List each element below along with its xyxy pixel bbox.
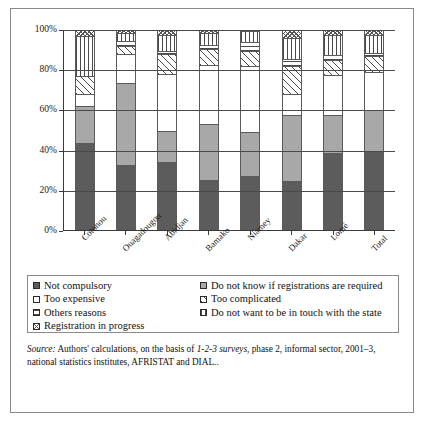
y-axis-tick bbox=[59, 110, 63, 111]
legend-swatch-white-icon bbox=[33, 296, 40, 303]
bar-segment bbox=[282, 38, 302, 59]
source-text-before: Authors' calculations, on the basis of bbox=[56, 344, 197, 354]
bar-segment bbox=[75, 76, 95, 94]
grid-line bbox=[64, 70, 395, 71]
x-axis-tick bbox=[374, 231, 375, 235]
stacked-bar bbox=[282, 30, 302, 230]
y-axis-tick-label: 0% bbox=[25, 226, 57, 236]
bar-column bbox=[323, 30, 343, 230]
legend-label: Do not know if registrations are require… bbox=[211, 281, 382, 292]
y-axis-tick bbox=[59, 151, 63, 152]
bar-column bbox=[116, 30, 136, 230]
legend-item: Others reasons bbox=[33, 306, 201, 320]
bar-segment bbox=[364, 53, 384, 56]
legend-label: Not compulsory bbox=[44, 281, 112, 292]
bar-segment bbox=[240, 51, 260, 66]
bar-segment bbox=[364, 110, 384, 152]
bar-column bbox=[282, 30, 302, 230]
bar-segment bbox=[282, 59, 302, 66]
legend-item: Registration in progress bbox=[33, 320, 201, 334]
bar-segment bbox=[282, 115, 302, 181]
stacked-bar bbox=[157, 30, 177, 230]
legend-label: Others reasons bbox=[44, 308, 106, 319]
source-italic-phrase: 1-2-3 surveys bbox=[197, 344, 247, 354]
bar-segment bbox=[323, 55, 343, 60]
bar-segment bbox=[199, 180, 219, 230]
stacked-bar bbox=[116, 30, 136, 230]
legend-column-left: Not compulsoryToo expensiveOthers reason… bbox=[33, 279, 201, 333]
plot-canvas bbox=[63, 30, 395, 231]
legend-label: Too complicated bbox=[211, 294, 281, 305]
y-axis-tick bbox=[59, 191, 63, 192]
x-axis-labels: CotonouOuagadougouAbidjanBamakoNiameyDak… bbox=[63, 231, 395, 275]
legend-label: Registration in progress bbox=[44, 321, 144, 332]
legend-swatch-solid-dark-gray-icon bbox=[33, 282, 40, 289]
y-axis-tick-label: 100% bbox=[25, 25, 57, 35]
legend-swatch-vertical-lines-icon bbox=[200, 309, 207, 316]
y-axis-tick-label: 40% bbox=[25, 146, 57, 156]
bar-segment bbox=[199, 124, 219, 180]
bar-column bbox=[240, 30, 260, 230]
bar-segment bbox=[323, 35, 343, 55]
bar-segment bbox=[157, 35, 177, 51]
bar-segment bbox=[199, 65, 219, 124]
bar-segment bbox=[364, 72, 384, 110]
stacked-bar bbox=[364, 30, 384, 230]
bar-segment bbox=[282, 94, 302, 115]
bar-segment bbox=[240, 132, 260, 176]
legend-swatch-diagonal-hatch-icon bbox=[200, 296, 207, 303]
legend-item: Do not know if registrations are require… bbox=[200, 279, 398, 293]
legend-swatch-checkerboard-icon bbox=[33, 323, 40, 330]
grid-line bbox=[64, 110, 395, 111]
bar-segment bbox=[199, 33, 219, 45]
bar-column bbox=[157, 30, 177, 230]
bar-segment bbox=[240, 66, 260, 132]
stacked-bar bbox=[323, 30, 343, 230]
bar-segment bbox=[116, 165, 136, 230]
legend-item: Do not want to be in touch with the stat… bbox=[200, 306, 398, 320]
y-axis-tick-label: 20% bbox=[25, 186, 57, 196]
source-label: Source: bbox=[27, 344, 56, 354]
y-axis-tick-label: 80% bbox=[25, 65, 57, 75]
legend-item: Too expensive bbox=[33, 293, 201, 307]
bar-segment bbox=[240, 31, 260, 42]
bar-segment bbox=[116, 33, 136, 41]
stacked-bar bbox=[240, 30, 260, 230]
bar-segment bbox=[199, 49, 219, 65]
x-axis-label: Total bbox=[370, 234, 389, 253]
bar-segment bbox=[364, 35, 384, 53]
bar-segment bbox=[157, 51, 177, 54]
legend-swatch-horizontal-lines-icon bbox=[33, 309, 40, 316]
bar-column bbox=[364, 30, 384, 230]
bar-segment bbox=[116, 46, 136, 54]
y-axis-tick-label: 60% bbox=[25, 105, 57, 115]
bar-segment bbox=[75, 94, 95, 106]
y-axis-tick bbox=[59, 30, 63, 31]
bar-segment bbox=[282, 30, 302, 38]
bar-segment bbox=[157, 74, 177, 131]
bar-segment bbox=[323, 75, 343, 115]
bar-segment bbox=[116, 83, 136, 165]
x-axis-tick bbox=[291, 231, 292, 235]
bar-segment bbox=[240, 42, 260, 51]
legend-column-right: Do not know if registrations are require… bbox=[200, 279, 398, 320]
grid-line bbox=[64, 151, 395, 152]
x-axis-tick bbox=[208, 231, 209, 235]
bar-column bbox=[75, 30, 95, 230]
grid-line bbox=[64, 30, 395, 31]
bar-group bbox=[64, 30, 395, 230]
bar-segment bbox=[116, 41, 136, 46]
bar-segment bbox=[323, 115, 343, 153]
legend-item: Not compulsory bbox=[33, 279, 201, 293]
legend-label: Too expensive bbox=[44, 294, 105, 305]
x-axis-tick bbox=[125, 231, 126, 235]
bar-segment bbox=[75, 106, 95, 143]
bar-segment bbox=[323, 60, 343, 75]
legend-swatch-solid-mid-gray-icon bbox=[200, 282, 207, 289]
legend-item: Too complicated bbox=[200, 293, 398, 307]
figure-panel: 0%20%40%60%80%100% CotonouOuagadougouAbi… bbox=[10, 8, 414, 413]
source-note: Source: Authors' calculations, on the ba… bbox=[27, 343, 401, 369]
chart-plot-area: 0%20%40%60%80%100% CotonouOuagadougouAbi… bbox=[25, 21, 401, 253]
bar-segment bbox=[199, 45, 219, 49]
bar-column bbox=[199, 30, 219, 230]
